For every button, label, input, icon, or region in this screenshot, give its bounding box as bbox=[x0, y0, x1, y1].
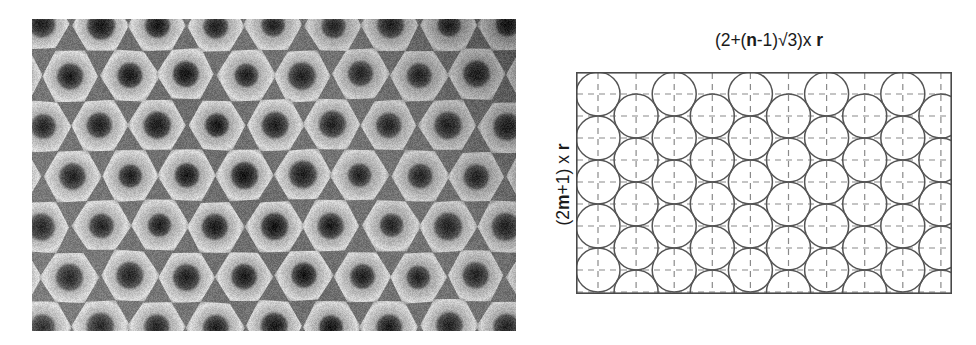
packing-box bbox=[576, 72, 952, 294]
height-label-part-3: r bbox=[553, 143, 573, 150]
width-label-part-0: (2+( bbox=[715, 30, 746, 50]
sem-micrograph bbox=[32, 19, 516, 331]
figure-root: (2+(n-1)√3)x r (2m+1) x r bbox=[0, 0, 976, 345]
height-label-part-1: m bbox=[553, 194, 573, 210]
sem-micrograph-canvas bbox=[32, 19, 516, 331]
width-label-part-1: n bbox=[746, 30, 757, 50]
diagram-width-label-text: (2+(n-1)√3)x r bbox=[715, 30, 823, 50]
width-label-part-2: -1)√3)x bbox=[757, 30, 816, 50]
height-label-part-2: +1) x bbox=[553, 150, 573, 194]
height-label-part-0: (2 bbox=[553, 210, 573, 226]
diagram-width-label: (2+(n-1)√3)x r bbox=[576, 30, 962, 51]
close-packing-schematic: (2+(n-1)√3)x r (2m+1) x r bbox=[522, 14, 962, 314]
packing-diagram-svg bbox=[576, 72, 952, 294]
width-label-part-3: r bbox=[816, 30, 823, 50]
diagram-height-label: (2m+1) x r bbox=[553, 90, 574, 280]
diagram-height-label-text: (2m+1) x r bbox=[553, 143, 573, 225]
